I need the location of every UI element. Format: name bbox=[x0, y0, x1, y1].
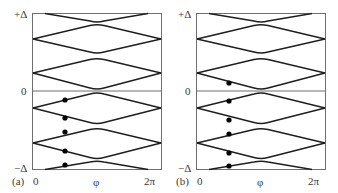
occupied-dot bbox=[62, 148, 67, 153]
band-top-v bbox=[209, 14, 312, 23]
panel-a-y-bottom-label: −Δ bbox=[14, 163, 27, 174]
occupied-dot bbox=[226, 131, 231, 136]
band-bottom-lambda bbox=[209, 161, 312, 169]
band-diagram-svg bbox=[0, 0, 338, 193]
panel-a-y-top-label: +Δ bbox=[14, 9, 27, 20]
panel-b-x-left-label: 0 bbox=[197, 176, 203, 187]
occupied-dot bbox=[226, 163, 231, 168]
band-4-lower bbox=[197, 143, 325, 159]
panel-a-x-right-label: 2π bbox=[144, 176, 155, 187]
occupied-dot bbox=[226, 98, 231, 103]
panel-b-y-zero-label: 0 bbox=[185, 86, 191, 97]
band-2-upper bbox=[197, 59, 325, 73]
figure: +Δ 0 −Δ (a) 0 φ 2π +Δ 0 −Δ (b) 0 φ 2π bbox=[0, 0, 338, 193]
band-1-upper bbox=[197, 25, 325, 39]
panel-b-y-bottom-label: −Δ bbox=[178, 163, 191, 174]
occupied-dot bbox=[62, 97, 67, 102]
panel-b-occupied-dots bbox=[226, 80, 231, 168]
panel-a-x-mid-label: φ bbox=[93, 177, 99, 188]
band-3-lower bbox=[197, 108, 325, 124]
panel-b bbox=[196, 14, 326, 170]
panel-b-x-right-label: 2π bbox=[308, 176, 319, 187]
band-2-lower bbox=[33, 73, 161, 89]
band-1-lower bbox=[197, 39, 325, 53]
panel-a-y-zero-label: 0 bbox=[21, 86, 27, 97]
band-3-lower bbox=[33, 108, 161, 124]
panel-b-label: (b) bbox=[176, 176, 189, 187]
band-1-upper bbox=[33, 25, 161, 39]
panel-b-y-top-label: +Δ bbox=[178, 9, 191, 20]
band-bottom-lambda bbox=[45, 161, 148, 169]
band-3-upper bbox=[33, 93, 161, 108]
band-3-upper bbox=[197, 93, 325, 108]
panel-a-label: (a) bbox=[12, 176, 24, 187]
band-1-lower bbox=[33, 39, 161, 53]
band-top-v bbox=[45, 14, 148, 23]
occupied-dot bbox=[226, 150, 231, 155]
band-4-upper bbox=[33, 129, 161, 143]
panel-a-x-left-label: 0 bbox=[33, 176, 39, 187]
band-4-lower bbox=[33, 143, 161, 159]
panel-a-occupied-dots bbox=[62, 97, 67, 167]
band-2-lower bbox=[197, 73, 325, 89]
occupied-dot bbox=[62, 129, 67, 134]
occupied-dot bbox=[226, 117, 231, 122]
occupied-dot bbox=[62, 162, 67, 167]
band-2-upper bbox=[33, 59, 161, 73]
panel-a bbox=[32, 14, 162, 170]
occupied-dot bbox=[62, 115, 67, 120]
occupied-dot bbox=[226, 80, 231, 85]
panel-b-x-mid-label: φ bbox=[257, 177, 263, 188]
band-4-upper bbox=[197, 129, 325, 143]
